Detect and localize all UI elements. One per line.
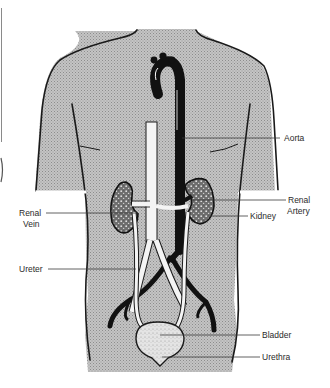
label-kidney: Kidney bbox=[250, 211, 277, 221]
label-urethra: Urethra bbox=[262, 352, 291, 362]
label-renal-artery-line2: Artery bbox=[287, 206, 310, 216]
label-renal-vein-line2: Vein bbox=[23, 219, 40, 229]
label-renal-artery-line1: Renal bbox=[288, 195, 310, 205]
urinary-system-diagram: Aorta Renal Artery Kidney Renal Vein Ure… bbox=[0, 0, 330, 388]
label-aorta: Aorta bbox=[284, 133, 305, 143]
label-ureter: Ureter bbox=[19, 264, 43, 274]
label-bladder: Bladder bbox=[262, 330, 291, 340]
page-edge-mark bbox=[1, 158, 3, 182]
label-renal-vein-line1: Renal bbox=[19, 208, 41, 218]
